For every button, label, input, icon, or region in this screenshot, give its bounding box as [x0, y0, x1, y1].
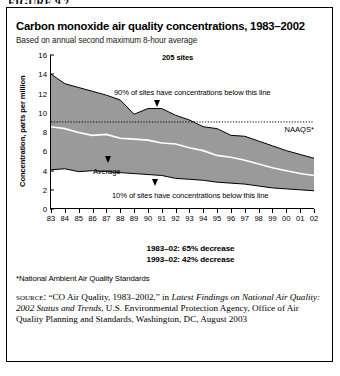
- y-tick-label: 16: [38, 51, 50, 60]
- x-tick-mark: [217, 209, 218, 213]
- y-tick-label: 10: [38, 108, 50, 117]
- x-tick-label: 84: [61, 214, 69, 223]
- x-tick-mark: [106, 209, 107, 213]
- x-tick-mark: [231, 209, 232, 213]
- x-tick-mark: [272, 209, 273, 213]
- y-tick-label: 8: [43, 128, 50, 137]
- x-tick-mark: [162, 209, 163, 213]
- source-text-part-1: “CO Air Quality, 1983–2002,” in: [48, 292, 171, 302]
- x-tick-label: 88: [116, 214, 124, 223]
- p10-annotation-arrow-icon: [152, 179, 158, 186]
- average-annotation: Average: [93, 167, 120, 176]
- x-axis-line: [50, 208, 314, 209]
- x-tick-label: 99: [268, 214, 276, 223]
- chart-subtitle: Based on annual second maximum 8-hour av…: [16, 36, 323, 45]
- x-tick-mark: [93, 209, 94, 213]
- stat-1993-2002: 1993–02: 42% decrease: [58, 255, 323, 266]
- x-tick-mark: [120, 209, 121, 213]
- x-tick-label: 83: [47, 214, 55, 223]
- y-tick-label: 6: [43, 147, 50, 156]
- chart-axes: 0246810121416 83848586878889909192939495…: [50, 55, 314, 209]
- x-tick-mark: [189, 209, 190, 213]
- x-tick-mark: [286, 209, 287, 213]
- x-tick-mark: [79, 209, 80, 213]
- x-tick-label: 89: [130, 214, 138, 223]
- x-tick-mark: [176, 209, 177, 213]
- y-tick-label: 4: [43, 166, 50, 175]
- page-figure-number: FIGURE 9.2: [8, 0, 69, 4]
- x-tick-label: 87: [102, 214, 110, 223]
- figure-container: Carbon monoxide air quality concentratio…: [6, 7, 333, 362]
- source-citation: source: “CO Air Quality, 1983–2002,” in …: [16, 292, 323, 326]
- x-tick-mark: [134, 209, 135, 213]
- figure-inner: Carbon monoxide air quality concentratio…: [7, 8, 332, 361]
- p90-annotation: 90% of sites have concentrations below t…: [114, 88, 270, 97]
- y-tick-label: 0: [43, 205, 50, 214]
- source-kicker: source:: [16, 292, 46, 302]
- x-tick-mark: [314, 209, 315, 213]
- x-tick-label: 85: [74, 214, 82, 223]
- x-tick-label: 93: [185, 214, 193, 223]
- p10-annotation: 10% of sites have concentrations below t…: [112, 191, 268, 200]
- x-tick-mark: [245, 209, 246, 213]
- x-tick-label: 01: [296, 214, 304, 223]
- naaqs-label: NAAQS*: [284, 125, 314, 134]
- x-tick-mark: [300, 209, 301, 213]
- x-tick-label: 00: [282, 214, 290, 223]
- x-tick-label: 98: [254, 214, 262, 223]
- average-annotation-arrow-icon: [105, 156, 111, 163]
- x-tick-label: 90: [144, 214, 152, 223]
- stat-1983-2002: 1983–02: 65% decrease: [58, 244, 323, 255]
- sites-count-label: 205 sites: [162, 53, 193, 62]
- x-tick-mark: [51, 209, 52, 213]
- x-tick-mark: [203, 209, 204, 213]
- y-tick-label: 12: [38, 89, 50, 98]
- y-tick-label: 14: [38, 70, 50, 79]
- x-tick-label: 96: [227, 214, 235, 223]
- area-band-chart: [51, 55, 314, 208]
- x-tick-label: 02: [310, 214, 318, 223]
- x-tick-label: 95: [213, 214, 221, 223]
- x-tick-label: 92: [171, 214, 179, 223]
- x-tick-label: 91: [158, 214, 166, 223]
- y-tick-label: 2: [43, 185, 50, 194]
- chart-title: Carbon monoxide air quality concentratio…: [16, 20, 323, 33]
- decrease-stats: 1983–02: 65% decrease 1993–02: 42% decre…: [16, 244, 323, 265]
- footnote: *National Ambient Air Quality Standards: [16, 274, 323, 283]
- x-tick-mark: [65, 209, 66, 213]
- y-axis-label: Concentration, parts per million: [16, 55, 28, 207]
- p90-annotation-arrow-icon: [154, 100, 160, 107]
- chart-plot-area: Concentration, parts per million 0246810…: [16, 49, 323, 224]
- x-tick-label: 94: [199, 214, 207, 223]
- x-tick-label: 86: [88, 214, 96, 223]
- x-tick-mark: [148, 209, 149, 213]
- x-tick-mark: [259, 209, 260, 213]
- x-tick-label: 97: [241, 214, 249, 223]
